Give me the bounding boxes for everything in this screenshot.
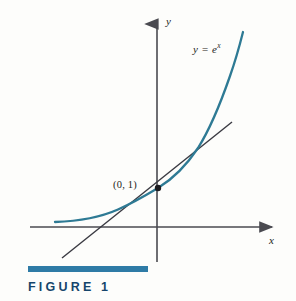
point-coordinate-label: (0, 1)	[113, 180, 137, 191]
curve-equation-base: y = e	[193, 43, 217, 55]
graph-canvas	[0, 0, 296, 301]
y-axis-label: y	[166, 16, 171, 27]
figure-caption-block: FIGURE 1	[28, 266, 188, 294]
curve-equation-exponent: x	[217, 41, 221, 50]
tangent-line	[62, 122, 232, 258]
curve-equation-label: y = ex	[193, 42, 221, 55]
figure-container: y x y = ex (0, 1) FIGURE 1	[0, 0, 296, 301]
caption-rule	[28, 266, 148, 272]
point-marker-0-1	[155, 185, 161, 191]
figure-caption-text: FIGURE 1	[28, 280, 188, 294]
exponential-curve	[55, 32, 243, 222]
x-axis-label: x	[269, 235, 274, 246]
